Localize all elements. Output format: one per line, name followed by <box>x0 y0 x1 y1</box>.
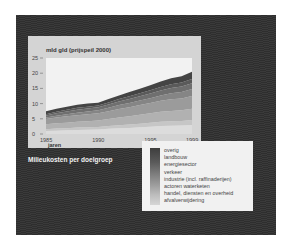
legend-item: overig <box>164 147 233 154</box>
x-tick-label: 1990 <box>92 137 104 143</box>
chart-card: mld gld (prijspeil 2000) 252015105019851… <box>28 36 201 148</box>
y-tick-label: 20 <box>32 70 38 76</box>
y-tick-label: 15 <box>32 85 38 91</box>
chart-caption: Milieukosten per doelgroep <box>28 156 113 163</box>
y-tick-label: 0 <box>32 131 35 137</box>
legend: overiglandbouwenergiesectorverkeerindust… <box>142 141 253 211</box>
legend-item: afvalverwijdering <box>164 197 233 204</box>
legend-list: overiglandbouwenergiesectorverkeerindust… <box>164 147 233 205</box>
legend-gradient-swatch <box>150 148 160 205</box>
stacked-area-plot: 25201510501985199019951999jaren <box>28 36 201 148</box>
legend-item: verkeer <box>164 169 233 176</box>
legend-item: energiesector <box>164 161 233 168</box>
y-tick-label: 10 <box>32 101 38 107</box>
legend-item: actoren waterketen <box>164 183 233 190</box>
x-axis-label: jaren <box>47 142 62 148</box>
legend-item: industrie (incl. raffinaderijen) <box>164 176 233 183</box>
y-tick-label: 25 <box>32 55 38 61</box>
legend-item: landbouw <box>164 154 233 161</box>
y-tick-label: 5 <box>32 116 35 122</box>
legend-item: handel, diensten en overheid <box>164 190 233 197</box>
